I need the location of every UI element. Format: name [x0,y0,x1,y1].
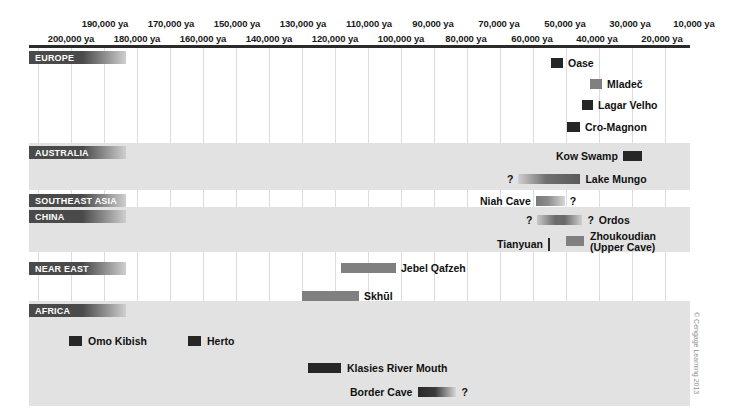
region-label-australia: AUSTRALIA [29,146,126,159]
bar-mladec [590,79,602,89]
axis-tick-190000: 190,000 ya [82,18,129,29]
entry-skhul[interactable]: Skhūl [302,289,393,303]
bar-niah-cave [536,196,565,206]
axis-top-ticks: 190,000 ya 170,000 ya 150,000 ya 130,000… [0,18,730,33]
entry-lake-mungo[interactable]: ? Lake Mungo [507,172,647,186]
axis-tick-130000: 130,000 ya [280,18,327,29]
time-axis: 190,000 ya 170,000 ya 150,000 ya 130,000… [0,0,730,48]
entry-label-cro-magnon: Cro-Magnon [585,121,647,133]
entry-label-ordos: Ordos [599,214,630,226]
bar-ordos [537,215,582,225]
entry-label-mladec: Mladeč [607,78,643,90]
axis-tick-120000: 120,000 ya [312,33,359,44]
axis-tick-200000: 200,000 ya [48,33,95,44]
axis-tick-40000: 40,000 ya [576,33,617,44]
entry-uncertainty-ordos-end: ? [587,214,593,226]
region-label-southeast-asia: SOUTHEAST ASIA [29,194,126,207]
bar-klasies-river-mouth [308,363,341,373]
entry-oase[interactable]: Oase [551,56,594,70]
axis-tick-90000: 90,000 ya [412,18,453,29]
axis-tick-50000: 50,000 ya [544,18,585,29]
entry-label-omo-kibish: Omo Kibish [88,335,147,347]
entry-label-oase: Oase [568,57,594,69]
bar-skhul [302,291,359,301]
entry-niah-cave[interactable]: Niah Cave ? [480,194,576,208]
bar-cro-magnon [567,122,580,132]
region-label-china-text: CHINA [29,212,65,222]
entry-uncertainty-niah-cave: ? [570,195,576,207]
copyright-text: © Cengage Learning 2013 [693,312,700,394]
entry-ordos[interactable]: ? ? Ordos [526,213,630,227]
region-label-near-east: NEAR EAST [29,262,126,275]
bar-kow-swamp [623,151,642,161]
axis-tick-160000: 160,000 ya [180,33,227,44]
axis-tick-140000: 140,000 ya [246,33,293,44]
region-label-europe: EUROPE [29,51,126,64]
entry-tianyuan[interactable]: Tianyuan [497,237,550,251]
copyright-notice: © Cengage Learning 2013 [700,312,712,402]
bar-lagar-velho [582,100,593,110]
axis-tick-100000: 100,000 ya [378,33,425,44]
entry-label-tianyuan: Tianyuan [497,238,543,250]
axis-tick-170000: 170,000 ya [148,18,195,29]
entry-omo-kibish[interactable]: Omo Kibish [69,334,147,348]
bar-tianyuan [548,238,550,251]
region-label-china: CHINA [29,210,126,223]
entry-label-herto: Herto [207,335,234,347]
entry-kow-swamp[interactable]: Kow Swamp [556,149,642,163]
entry-lagar-velho[interactable]: Lagar Velho [582,98,658,112]
region-label-africa-text: AFRICA [29,306,70,316]
bar-oase [551,58,563,68]
region-label-africa: AFRICA [29,304,126,317]
entry-label-klasies-river-mouth: Klasies River Mouth [347,362,447,374]
bar-zhoukoudian [566,236,584,246]
region-label-southeast-asia-text: SOUTHEAST ASIA [29,196,117,206]
bar-jebel-qafzeh [341,263,396,273]
entry-label-skhul: Skhūl [364,290,393,302]
entry-uncertainty-lake-mungo: ? [507,173,513,185]
bar-border-cave [418,387,456,397]
entry-label-niah-cave: Niah Cave [480,195,531,207]
region-label-australia-text: AUSTRALIA [29,148,89,158]
entry-label-kow-swamp: Kow Swamp [556,150,618,162]
entry-label-lake-mungo: Lake Mungo [585,173,646,185]
axis-tick-30000: 30,000 ya [609,18,650,29]
entry-label-lagar-velho: Lagar Velho [598,99,658,111]
axis-tick-80000: 80,000 ya [445,33,486,44]
axis-tick-10000: 10,000 ya [673,18,714,29]
entry-label-border-cave: Border Cave [350,386,412,398]
axis-tick-110000: 110,000 ya [346,18,392,29]
axis-tick-60000: 60,000 ya [511,33,552,44]
axis-tick-20000: 20,000 ya [641,33,682,44]
bar-herto [188,336,201,346]
entry-mladec[interactable]: Mladeč [590,77,643,91]
entry-klasies-river-mouth[interactable]: Klasies River Mouth [308,361,447,375]
entry-cro-magnon[interactable]: Cro-Magnon [567,120,647,134]
region-label-near-east-text: NEAR EAST [29,264,89,274]
entry-border-cave[interactable]: Border Cave ? [350,385,468,399]
entry-uncertainty-ordos-start: ? [526,214,532,226]
entry-sublabel-zhoukoudian: (Upper Cave) [590,242,656,253]
axis-tick-70000: 70,000 ya [478,18,519,29]
bar-omo-kibish [69,336,82,346]
entry-zhoukoudian[interactable]: Zhoukoudian (Upper Cave) [566,231,656,255]
timeline-plot: EUROPE Oase Mladeč Lagar Velho Cro-Magno… [29,48,690,406]
entry-herto[interactable]: Herto [188,334,234,348]
entry-label-jebel-qafzeh: Jebel Qafzeh [401,262,466,274]
axis-tick-150000: 150,000 ya [214,18,261,29]
entry-uncertainty-border-cave: ? [461,386,467,398]
region-label-europe-text: EUROPE [29,53,74,63]
entry-jebel-qafzeh[interactable]: Jebel Qafzeh [341,261,466,275]
axis-tick-180000: 180,000 ya [114,33,161,44]
bar-lake-mungo [518,174,580,184]
